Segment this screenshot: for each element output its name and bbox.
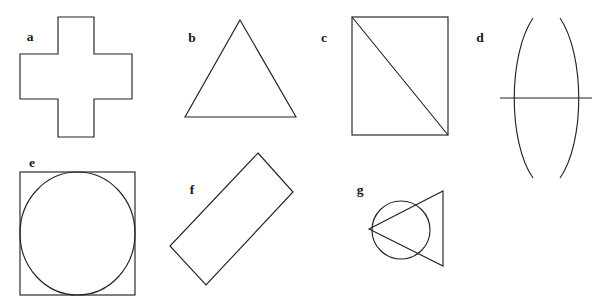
square-outline [20, 172, 135, 295]
shape-e-square-circle: e [20, 155, 135, 295]
shape-g-circle-triangle: g [357, 182, 443, 266]
rotated-rectangle-outline [170, 153, 293, 285]
shape-label-f: f [190, 182, 195, 197]
shape-label-e: e [29, 155, 35, 170]
shape-label-a: a [27, 29, 34, 44]
shape-label-b: b [188, 30, 196, 45]
overlapping-triangle-outline [369, 191, 443, 266]
inscribed-circle [20, 172, 135, 295]
shape-d-arcs-line: d [476, 18, 592, 178]
shape-f-rotated-rectangle: f [170, 153, 293, 285]
circle-outline [372, 201, 430, 259]
triangle-outline [185, 20, 296, 117]
figure-canvas: a b c d e f [0, 0, 592, 307]
shape-b-triangle: b [185, 20, 296, 117]
shapes-svg: a b c d e f [0, 0, 592, 307]
shape-c-rectangle-diagonal: c [321, 17, 448, 135]
cross-outline [20, 17, 132, 137]
rectangle-diagonal-line [352, 17, 448, 135]
shape-label-c: c [321, 30, 327, 45]
shape-label-d: d [476, 30, 484, 45]
shape-label-g: g [357, 182, 364, 197]
shape-a-cross: a [20, 17, 132, 137]
